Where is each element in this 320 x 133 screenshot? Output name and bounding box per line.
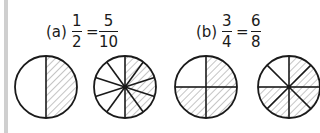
center-dot	[123, 85, 127, 89]
pie-six-eighths	[258, 56, 320, 118]
pie-one-half	[15, 56, 77, 118]
pie-three-quarters	[175, 56, 237, 118]
pie-five-tenths	[94, 56, 156, 118]
shaded-slice	[46, 56, 77, 118]
slice-divider	[267, 65, 289, 87]
center-dot	[287, 85, 291, 89]
fraction-pie-diagrams	[0, 0, 320, 133]
